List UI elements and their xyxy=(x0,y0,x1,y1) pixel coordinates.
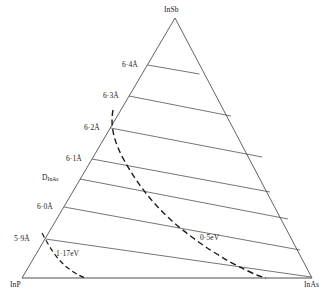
vertex-label-inas: InAs xyxy=(304,281,319,289)
tick-label-6-0: 6·0Å xyxy=(37,203,53,211)
tick-label-d-inas-subscript: InAs xyxy=(48,176,59,182)
iso-lattice-line-6-3 xyxy=(129,96,231,116)
curve-label-0-5ev: 0·5eV xyxy=(200,234,219,242)
iso-lattice-line-6-1 xyxy=(92,159,270,192)
tick-label-5-9: 5·9Å xyxy=(14,235,30,243)
triangle-outline xyxy=(22,18,312,278)
iso-bandgap-curve-0-5ev xyxy=(112,110,266,278)
curve-label-1-17ev: 1·17eV xyxy=(56,250,79,258)
plot-canvas xyxy=(0,0,329,296)
tick-label-d-inas: DInAs xyxy=(42,174,58,183)
iso-lattice-line-6-4 xyxy=(148,65,200,74)
ternary-phase-diagram: InSb InP InAs 6·4Å 6·3Å 6·2Å 6·1Å DInAs … xyxy=(0,0,329,296)
tick-label-6-2: 6·2Å xyxy=(84,124,100,132)
iso-lattice-line-d-inas xyxy=(80,179,288,219)
tick-label-6-3: 6·3Å xyxy=(103,92,119,100)
iso-lattice-line-6-0 xyxy=(64,207,300,250)
tick-label-6-1: 6·1Å xyxy=(66,155,82,163)
vertex-label-insb: InSb xyxy=(164,6,179,14)
vertex-label-inp: InP xyxy=(10,281,21,289)
tick-label-6-4: 6·4Å xyxy=(122,61,138,69)
iso-lattice-line-6-2 xyxy=(111,128,263,157)
